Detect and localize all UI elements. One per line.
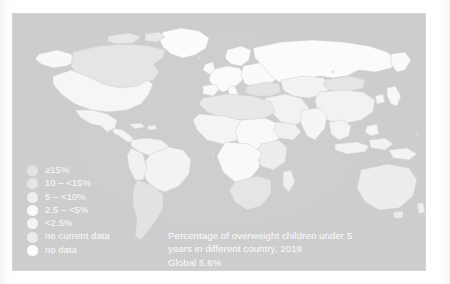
region-caribbean-2 bbox=[147, 125, 157, 130]
region-tasmania bbox=[393, 211, 403, 218]
region-mongolia bbox=[323, 76, 365, 92]
region-new-zealand bbox=[417, 202, 425, 214]
region-new-guinea bbox=[389, 148, 417, 160]
legend-swatch-2p5-5 bbox=[27, 205, 38, 216]
island-speck-3 bbox=[332, 71, 334, 73]
region-congo-basin bbox=[217, 142, 261, 182]
map-caption: Percentage of overweight children under … bbox=[168, 229, 418, 269]
region-alaska bbox=[35, 50, 75, 68]
region-canada-arctic-1 bbox=[107, 33, 141, 44]
legend-label-5-10: 5 – <10% bbox=[45, 191, 86, 204]
island-speck-6 bbox=[416, 133, 418, 135]
region-india bbox=[301, 108, 327, 140]
legend-item-10-15[interactable]: 10 – <15% bbox=[19, 177, 154, 190]
region-greenland bbox=[159, 28, 209, 58]
legend-item-2p5-5[interactable]: 2.5 – <5% bbox=[19, 204, 154, 217]
caption-line-2: years in different country, 2019 bbox=[168, 242, 418, 255]
legend-label-lt2p5: <2.5% bbox=[45, 217, 72, 230]
region-philippines bbox=[365, 124, 379, 136]
legend-label-no-current-data: no current data bbox=[45, 230, 110, 243]
caption-line-3: Global 5.6% bbox=[168, 256, 418, 269]
legend-swatch-5-10 bbox=[27, 192, 38, 203]
legend-item-5-10[interactable]: 5 – <10% bbox=[19, 191, 154, 204]
legend-label-no-data: no data bbox=[45, 244, 77, 257]
region-caribbean-1 bbox=[129, 123, 145, 129]
region-madagascar bbox=[283, 170, 295, 192]
region-russia bbox=[253, 40, 397, 84]
legend-label-10-15: 10 – <15% bbox=[45, 177, 91, 190]
map-panel: ≥15% 10 – <15% 5 – <10% 2.5 – <5% <2.5% bbox=[13, 14, 425, 270]
island-speck-2 bbox=[258, 159, 260, 161]
legend-label-ge15: ≥15% bbox=[45, 164, 69, 177]
legend-item-lt2p5[interactable]: <2.5% bbox=[19, 217, 154, 230]
legend-swatch-10-15 bbox=[27, 178, 38, 189]
region-indonesia-1 bbox=[335, 142, 369, 154]
region-scandinavia bbox=[225, 46, 251, 66]
figure-page: ≥15% 10 – <15% 5 – <10% 2.5 – <5% <2.5% bbox=[0, 0, 450, 284]
legend-label-2p5-5: 2.5 – <5% bbox=[45, 204, 88, 217]
region-japan bbox=[387, 86, 401, 106]
island-speck-4 bbox=[380, 159, 382, 161]
legend-swatch-no-current-data bbox=[27, 232, 38, 243]
region-korea bbox=[375, 94, 385, 104]
map-legend: ≥15% 10 – <15% 5 – <10% 2.5 – <5% <2.5% bbox=[19, 164, 154, 257]
region-russian-far-east bbox=[391, 52, 411, 72]
island-speck-1 bbox=[212, 153, 214, 155]
caption-line-1: Percentage of overweight children under … bbox=[168, 229, 418, 242]
legend-swatch-ge15 bbox=[27, 165, 38, 176]
region-mexico bbox=[75, 110, 117, 132]
legend-item-no-current-data[interactable]: no current data bbox=[19, 230, 154, 243]
legend-item-no-data[interactable]: no data bbox=[19, 244, 154, 257]
region-australia bbox=[357, 164, 417, 210]
legend-item-ge15[interactable]: ≥15% bbox=[19, 164, 154, 177]
legend-swatch-lt2p5 bbox=[27, 218, 38, 229]
region-indonesia-2 bbox=[369, 138, 393, 150]
island-speck-5 bbox=[198, 57, 200, 59]
legend-swatch-no-data bbox=[27, 245, 38, 256]
